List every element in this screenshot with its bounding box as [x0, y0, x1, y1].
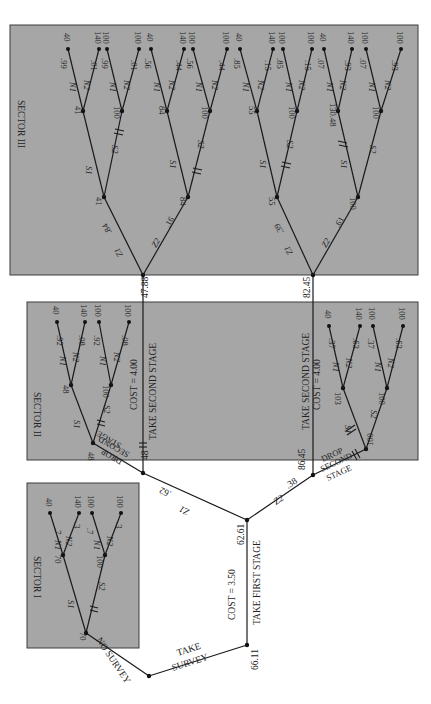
- z1-edge: [143, 473, 247, 520]
- leaf-prob: .85: [275, 58, 285, 69]
- leaf-prob: .37: [327, 338, 337, 349]
- leaf-value: 40: [234, 33, 244, 42]
- leaf-value: 100: [306, 31, 316, 44]
- s1-label: S1: [84, 166, 94, 175]
- s1-label: S1: [343, 425, 353, 434]
- sector2-lower-take-value: 82.45: [302, 276, 312, 298]
- leaf-node: [350, 47, 354, 51]
- leaf-prob: .15: [263, 60, 273, 71]
- leaf-prob: .08: [120, 335, 130, 346]
- leaf-branch: N1: [58, 355, 68, 366]
- leaf-value: 100: [187, 31, 197, 44]
- leaf-node: [182, 47, 186, 51]
- leaf-node: [83, 320, 87, 324]
- leaf-value: 140: [267, 31, 277, 44]
- leaf-prob: .99: [100, 58, 110, 69]
- leaf-prob: .85: [232, 58, 242, 69]
- first-stage-label: TAKE FIRST STAGE: [252, 540, 262, 625]
- leaf-value: 100: [397, 307, 407, 320]
- sector2-upper-take-label: TAKE SECOND STAGE: [148, 343, 158, 440]
- s1-label: S1: [339, 160, 349, 169]
- leaf-value: 40: [51, 306, 61, 315]
- leaf-node: [97, 320, 101, 324]
- leaf-prob: .3: [114, 522, 124, 528]
- sector1-s2-label: S2: [97, 582, 107, 591]
- leaf-prob: .93: [343, 60, 353, 71]
- leaf-value: 100: [115, 495, 125, 508]
- leaf-branch: N1: [92, 539, 102, 550]
- leaf-branch: N1: [68, 81, 78, 92]
- leaf-prob: .63: [351, 338, 361, 349]
- leaf-branch: N2: [82, 79, 92, 91]
- leaf-branch: N1: [152, 81, 162, 92]
- leaf-value: 140: [178, 31, 188, 44]
- leaf-value: 140: [354, 307, 364, 320]
- z1-node-value: 41: [94, 197, 104, 206]
- z1-node-value: 55: [267, 197, 277, 206]
- s2-label: S2: [369, 410, 379, 419]
- leaf-node: [55, 320, 59, 324]
- leaf-branch: N2: [71, 351, 81, 363]
- leaf-branch: N1: [331, 361, 341, 372]
- leaf-prob: .56: [143, 58, 153, 69]
- leaf-prob: .7: [85, 528, 95, 534]
- leaf-prob: .92: [92, 335, 102, 346]
- s1-label: S1: [258, 160, 268, 169]
- leaf-prob: .3: [72, 522, 82, 528]
- sector2-upper-value: 48: [140, 450, 150, 460]
- s1-label: S1: [168, 160, 178, 169]
- sector1-root-value: 70: [78, 632, 88, 641]
- leaf-node: [310, 47, 314, 51]
- leaf-node: [191, 47, 195, 51]
- leaf-prob: .44: [217, 60, 227, 71]
- leaf-node: [127, 320, 131, 324]
- leaf-value: 100: [86, 495, 96, 508]
- leaf-node: [327, 324, 331, 328]
- sector2-lower-value: 86.45: [297, 448, 307, 470]
- leaf-value: 40: [44, 498, 54, 507]
- s2-node-value: 100: [101, 385, 111, 398]
- leaf-branch: N1: [98, 355, 108, 366]
- leaf-value: 100: [133, 31, 143, 44]
- leaf-node: [399, 47, 403, 51]
- leaf-branch: N1: [194, 81, 204, 92]
- leaf-branch: N2: [338, 79, 348, 91]
- first-stage-value: 62.61: [236, 523, 246, 545]
- s2-node-value: 100: [287, 106, 297, 119]
- leaf-node: [105, 47, 109, 51]
- leaf-value: 140: [73, 495, 83, 508]
- sector2-upper-cost: COST = 4.00: [129, 359, 139, 410]
- leaf-value: 140: [79, 304, 89, 317]
- leaf-value: 100: [101, 31, 111, 44]
- leaf-node: [281, 47, 285, 51]
- leaf-node: [401, 324, 405, 328]
- leaf-branch: N1: [241, 81, 251, 92]
- root-node: [147, 674, 151, 678]
- leaf-node: [90, 511, 94, 515]
- leaf-node: [322, 47, 326, 51]
- leaf-prob: .37: [366, 338, 376, 349]
- sector2-upper-drop-value: 48: [86, 452, 96, 461]
- sector-ii-title: SECTOR II: [32, 392, 42, 437]
- leaf-value: 100: [221, 31, 231, 44]
- leaf-branch: N2: [167, 79, 177, 91]
- leaf-prob: .01: [89, 60, 99, 71]
- leaf-node: [97, 47, 101, 51]
- s2-label: S2: [102, 405, 112, 414]
- z1-label: Z1: [178, 504, 191, 517]
- z2-node-value: 84: [178, 197, 188, 206]
- z2-node-value: 100: [348, 197, 358, 210]
- take-survey-value: 66.11: [250, 649, 260, 670]
- leaf-value: 40: [318, 33, 328, 42]
- leaf-prob: .08: [77, 335, 87, 346]
- leaf-node: [119, 511, 123, 515]
- leaf-node: [149, 47, 153, 51]
- leaf-value: 40: [145, 33, 155, 42]
- leaf-prob: .07: [358, 58, 368, 69]
- s2-label: S2: [368, 145, 378, 154]
- leaf-node: [271, 47, 275, 51]
- sector1-s2-value: 100: [95, 555, 105, 568]
- sector2-lower-drop-value: 100: [365, 433, 375, 446]
- leaf-node: [364, 47, 368, 51]
- leaf-node: [77, 511, 81, 515]
